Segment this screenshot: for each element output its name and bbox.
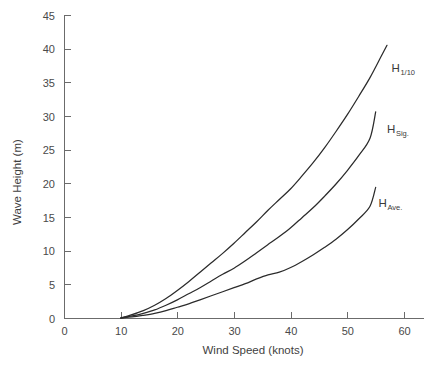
curve-label-subscript: Ave.: [387, 203, 402, 212]
curve-label-subscript: 1/10: [400, 68, 415, 77]
chart-plot-area: 051015202530354045 0102030405060 H1/10HS…: [0, 0, 437, 370]
y-axis-tick-label: 30: [43, 111, 55, 123]
x-axis-tick-label: 40: [285, 325, 297, 337]
y-axis-tick-label: 20: [43, 178, 55, 190]
curve-label-main: H: [387, 123, 395, 135]
x-axis-title: Wind Speed (knots): [203, 344, 304, 356]
y-axis-tick-label: 45: [43, 10, 55, 22]
curve-h-1-10: [121, 45, 387, 318]
curve-label-subscript: Sig.: [396, 129, 409, 138]
y-axis-tick-label: 15: [43, 212, 55, 224]
wave-height-chart: 051015202530354045 0102030405060 H1/10HS…: [0, 0, 437, 370]
y-axis-tick-label: 0: [49, 313, 55, 325]
curve-label-h-ave: HAve.: [379, 197, 403, 212]
x-axis-tick-label: 20: [172, 325, 184, 337]
curve-label-h-1-10: H1/10: [392, 62, 416, 77]
x-axis-tick-label: 50: [342, 325, 354, 337]
y-axis-tick-label: 10: [43, 245, 55, 257]
y-axis-title: Wave Height (m): [11, 139, 23, 225]
curve-label-main: H: [379, 197, 387, 209]
curve-label-main: H: [392, 62, 400, 74]
y-axis: 051015202530354045: [43, 10, 71, 325]
curve-h-sig: [121, 112, 376, 318]
y-axis-tick-label: 40: [43, 43, 55, 55]
y-axis-tick-label: 35: [43, 77, 55, 89]
x-axis-tick-label: 60: [398, 325, 410, 337]
x-axis-tick-label: 10: [115, 325, 127, 337]
curve-label-h-sig: HSig.: [387, 123, 409, 138]
curve-h-ave: [121, 187, 376, 318]
x-axis: 0102030405060: [61, 312, 424, 338]
y-axis-tick-label: 5: [49, 279, 55, 291]
curve-labels-group: H1/10HSig.HAve.: [379, 62, 416, 212]
curve-series-group: [121, 45, 387, 318]
x-axis-tick-label: 30: [228, 325, 240, 337]
x-axis-tick-label: 0: [61, 325, 67, 337]
y-axis-tick-label: 25: [43, 144, 55, 156]
